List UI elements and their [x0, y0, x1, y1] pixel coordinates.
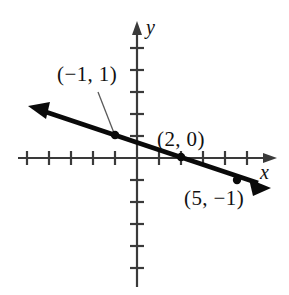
data-point-neg1-1	[111, 131, 119, 139]
graph-canvas	[0, 0, 289, 295]
line-arrowhead-left	[28, 102, 50, 119]
point-label-2-0: (2, 0)	[157, 129, 205, 150]
y-axis-label: y	[146, 17, 155, 37]
y-axis-arrowhead	[132, 21, 142, 35]
point-label-neg1-1: (−1, 1)	[57, 64, 117, 85]
data-point-2-0	[177, 153, 185, 161]
leader-line-neg1-1	[98, 92, 114, 133]
coordinate-plane-figure: (−1, 1) (2, 0) (5, −1) y x	[0, 0, 289, 295]
x-axis-label: x	[260, 162, 269, 182]
x-axis	[18, 153, 277, 163]
data-point-5-neg1	[233, 176, 241, 184]
y-axis	[132, 21, 142, 287]
point-label-5-neg1: (5, −1)	[184, 188, 244, 209]
